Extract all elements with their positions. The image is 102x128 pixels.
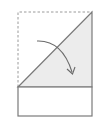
diagram-svg: [0, 0, 102, 128]
origami-diagram: [0, 0, 102, 128]
lower-rectangle: [18, 87, 92, 116]
folded-triangle: [18, 12, 92, 87]
